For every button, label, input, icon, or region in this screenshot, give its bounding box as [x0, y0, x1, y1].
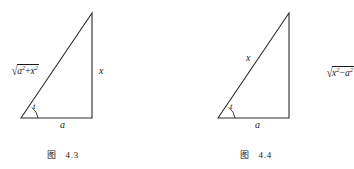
label-hypotenuse-right: x [246, 53, 250, 63]
label-angle-left: t [33, 102, 36, 111]
caption-number: 4.3 [66, 150, 80, 160]
label-angle-right: t [230, 102, 233, 111]
label-base-side-right: a [255, 120, 260, 130]
caption-prefix: 图 [47, 150, 57, 160]
radicand-exponent-2: 2 [350, 66, 353, 73]
radical-sign-icon: √ [12, 64, 18, 77]
label-hypotenuse-left: √a2+x2 [11, 64, 39, 77]
caption-prefix: 图 [240, 150, 250, 160]
triangle-outline-right [218, 13, 289, 118]
caption-fig-4-3: 图4.3 [47, 148, 79, 161]
label-vertical-side-left: x [99, 66, 103, 76]
radicand-exponent-2: 2 [35, 64, 38, 71]
label-base-side-left: a [60, 120, 65, 130]
label-vertical-side-right: √x2−a2 [326, 66, 354, 79]
caption-fig-4-4: 图4.4 [240, 148, 272, 161]
radical-sign-icon: √ [327, 66, 333, 79]
triangle-fig-4-4 [218, 13, 289, 118]
caption-number: 4.4 [259, 150, 273, 160]
